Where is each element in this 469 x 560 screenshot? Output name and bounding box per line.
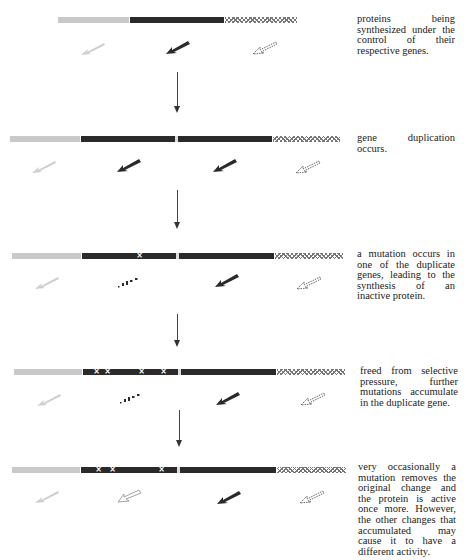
mutation-mark-icon: × xyxy=(109,466,116,474)
protein-outline-arrow-icon xyxy=(117,489,143,503)
mutation-mark-icon: × xyxy=(160,368,167,376)
gene-bar-step-2 xyxy=(10,136,340,142)
gene-segment-dark xyxy=(179,253,274,259)
protein-broken-arrow-icon xyxy=(117,275,143,289)
gene-segment-light xyxy=(14,369,82,375)
step-caption-1: proteins being synthesized under the con… xyxy=(357,14,455,56)
mutation-mark-icon: × xyxy=(138,368,145,376)
gene-segment-dark xyxy=(180,467,276,473)
step-arrow-head-icon xyxy=(174,340,180,347)
gene-bar-step-5: × × × xyxy=(12,467,346,473)
protein-light-arrow-icon xyxy=(31,160,57,174)
gene-segment-hatched xyxy=(275,253,343,259)
protein-light-arrow-icon xyxy=(34,276,60,290)
gene-segment-hatched xyxy=(273,136,340,142)
step-caption-2: gene duplication occurs. xyxy=(357,133,455,154)
gene-segment-dark xyxy=(81,136,175,142)
protein-dark-arrow-icon xyxy=(116,159,142,173)
gene-duplication-diagram: proteins being synthesized under the con… xyxy=(0,0,469,560)
gene-segment-dark-duplicate xyxy=(178,136,272,142)
step-arrow-shaft xyxy=(177,190,178,224)
protein-hatched-arrow-icon xyxy=(295,160,321,174)
step-arrow-shaft xyxy=(179,410,180,442)
gene-segment-hatched xyxy=(277,369,345,375)
protein-dark-arrow-icon xyxy=(216,491,242,505)
gene-segment-hatched xyxy=(277,467,346,473)
step-arrow-head-icon xyxy=(174,222,180,229)
step-caption-3: a mutation occurs in one of the duplicat… xyxy=(357,249,455,302)
gene-bar-step-3: × xyxy=(12,253,343,259)
step-caption-4: freed from selective pressure, further m… xyxy=(360,366,458,408)
protein-hatched-arrow-icon xyxy=(300,392,326,406)
mutation-mark-icon: × xyxy=(93,368,100,376)
gene-bar-step-1 xyxy=(58,17,297,23)
protein-dark-arrow-icon xyxy=(214,274,240,288)
step-arrow-shaft xyxy=(177,314,178,342)
step-arrow-head-icon xyxy=(176,440,182,447)
gene-segment-light xyxy=(12,253,81,259)
gene-segment-dark-mutated xyxy=(82,253,176,259)
protein-dark-arrow-duplicate-icon xyxy=(212,159,238,173)
protein-light-arrow-icon xyxy=(80,42,106,56)
gene-segment-dark xyxy=(181,369,276,375)
gene-segment-hatched xyxy=(225,17,297,23)
step-arrow-head-icon xyxy=(174,106,180,113)
protein-hatched-arrow-icon xyxy=(296,276,322,290)
gene-bar-step-4: × × × × xyxy=(14,369,345,375)
mutation-mark-icon: × xyxy=(95,466,102,474)
gene-segment-light xyxy=(12,467,80,473)
protein-hatched-arrow-icon xyxy=(252,41,278,55)
step-caption-5: very occasionally a mutation removes the… xyxy=(358,462,456,557)
protein-hatched-arrow-icon xyxy=(299,490,325,504)
gene-segment-light xyxy=(58,17,129,23)
mutation-mark-icon: × xyxy=(104,368,111,376)
protein-dark-arrow-icon xyxy=(165,41,191,55)
protein-dark-arrow-icon xyxy=(215,392,241,406)
mutation-mark-icon: × xyxy=(136,252,143,260)
protein-light-arrow-icon xyxy=(34,490,60,504)
gene-segment-light xyxy=(10,136,80,142)
step-arrow-shaft xyxy=(177,72,178,108)
gene-segment-dark xyxy=(130,17,224,23)
protein-light-arrow-icon xyxy=(36,393,62,407)
mutation-mark-icon: × xyxy=(158,466,165,474)
protein-broken-arrow-icon xyxy=(119,391,145,405)
